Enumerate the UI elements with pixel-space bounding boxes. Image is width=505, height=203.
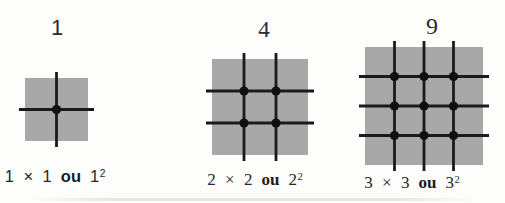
equation-label-2: 2 × 2 ou 22 [207, 171, 302, 188]
equation-conjunction: ou [61, 168, 81, 185]
count-label-9: 9 [426, 14, 438, 38]
equation-power: 12 [90, 168, 105, 185]
dot-grid-square-2x2 [204, 51, 316, 163]
equation-label-1: 1 × 1 ou 12 [5, 168, 106, 185]
dot-grid-square-1x1 [17, 70, 96, 149]
textbook-figure-square-numbers: 1 1 × 1 ou 12 4 2 × 2 ou 22 9 3 × 3 ou 3… [0, 0, 505, 203]
equation-product: 1 × 1 [5, 168, 52, 185]
dot-grid-square-3x3 [357, 39, 491, 173]
equation-power: 22 [288, 171, 302, 188]
count-label-1: 1 [51, 17, 63, 39]
equation-product: 3 × 3 [364, 174, 409, 191]
page-scan-shadow [30, 198, 477, 201]
equation-conjunction: ou [418, 174, 436, 191]
equation-power: 32 [445, 174, 459, 191]
count-label-4: 4 [258, 18, 270, 41]
equation-conjunction: ou [261, 171, 279, 188]
equation-label-3: 3 × 3 ou 32 [364, 174, 459, 191]
equation-product: 2 × 2 [207, 171, 252, 188]
